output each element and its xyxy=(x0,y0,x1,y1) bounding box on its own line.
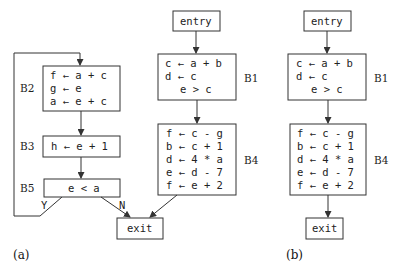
block-exit-b: exit xyxy=(306,218,343,239)
b5-label: B5 xyxy=(20,182,34,194)
panel-a: B2 f ← a + c g ← e a ← e + c B3 h ← e + … xyxy=(13,11,259,262)
block-b1-a: B1 c ← a + b d ← c e > c xyxy=(158,54,258,100)
block-b3: B3 h ← e + 1 xyxy=(20,136,120,157)
block-b4-b: B4 f ← c - g b ← c + 1 d ← 4 * a e ← d -… xyxy=(290,124,389,195)
b4-a-line-2: b ← c + 1 xyxy=(166,140,223,152)
block-entry-b: entry xyxy=(304,11,351,31)
edge-b5-to-exit xyxy=(101,197,130,217)
b4-b-line-4: e ← d - 7 xyxy=(297,166,354,178)
panel-b: entry B1 c ← a + b d ← c e > c B4 f ← c … xyxy=(286,11,389,262)
b4-a-line-4: e ← d - 7 xyxy=(166,166,223,178)
block-exit-a: exit xyxy=(117,218,163,239)
b1-a-label: B1 xyxy=(244,72,258,84)
entry-a-text: entry xyxy=(180,15,212,27)
b2-label: B2 xyxy=(20,82,34,94)
edge-label-yes: Y xyxy=(41,199,48,211)
b4-b-line-2: b ← c + 1 xyxy=(297,140,354,152)
b4-a-line-3: d ← 4 * a xyxy=(166,153,223,165)
b1-a-line-3: e > c xyxy=(180,83,212,95)
b4-a-label: B4 xyxy=(244,154,259,166)
block-b5: B5 e < a xyxy=(20,179,120,197)
b2-line-3: a ← e + c xyxy=(50,95,107,107)
b4-a-line-1: f ← c - g xyxy=(166,127,223,139)
b4-b-line-5: f ← e + 2 xyxy=(297,179,354,191)
exit-a-text: exit xyxy=(127,222,152,234)
b1-b-line-1: c ← a + b xyxy=(296,57,353,69)
block-entry-a: entry xyxy=(173,11,220,31)
b4-b-line-3: d ← 4 * a xyxy=(297,153,354,165)
b5-line-1: e < a xyxy=(68,182,100,194)
edge-b4-to-exit-a xyxy=(150,195,177,217)
block-b4-a: B4 f ← c - g b ← c + 1 d ← 4 * a e ← d -… xyxy=(158,124,259,195)
edge-label-no: N xyxy=(119,199,125,211)
b3-label: B3 xyxy=(20,140,34,152)
b1-a-line-1: c ← a + b xyxy=(165,57,222,69)
b4-b-line-1: f ← c - g xyxy=(297,127,354,139)
b4-a-line-5: f ← e + 2 xyxy=(166,179,223,191)
b1-b-label: B1 xyxy=(374,72,388,84)
b1-a-line-2: d ← c xyxy=(165,70,197,82)
exit-b-text: exit xyxy=(312,222,337,234)
b1-b-line-3: e > c xyxy=(311,83,343,95)
b4-b-label: B4 xyxy=(374,154,389,166)
b2-line-1: f ← a + c xyxy=(50,69,107,81)
control-flow-diagram: B2 f ← a + c g ← e a ← e + c B3 h ← e + … xyxy=(0,0,397,275)
b3-line-1: h ← e + 1 xyxy=(51,140,108,152)
b2-line-2: g ← e xyxy=(50,82,82,94)
block-b2: B2 f ← a + c g ← e a ← e + c xyxy=(20,66,120,111)
block-b1-b: B1 c ← a + b d ← c e > c xyxy=(288,54,388,100)
b1-b-line-2: d ← c xyxy=(296,70,328,82)
entry-b-text: entry xyxy=(311,15,343,27)
panel-b-label: (b) xyxy=(286,248,303,262)
panel-a-label: (a) xyxy=(13,248,30,262)
